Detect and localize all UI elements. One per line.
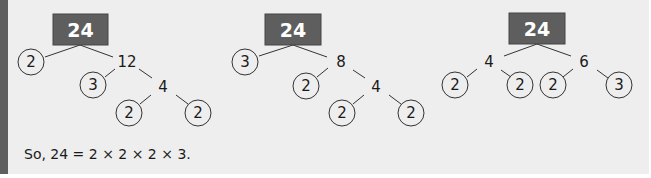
prime-factor: 2 — [406, 104, 416, 122]
root-value: 24 — [67, 19, 93, 41]
factor-tree-2: 24 3 8 2 4 2 2 — [232, 14, 424, 126]
prime-factor: 3 — [614, 76, 624, 94]
composite-factor: 4 — [371, 78, 381, 96]
prime-factor: 2 — [26, 53, 36, 71]
composite-factor: 4 — [484, 53, 494, 71]
root-value: 24 — [524, 18, 550, 40]
composite-factor: 6 — [579, 53, 589, 71]
composite-factor: 4 — [158, 78, 168, 96]
prime-factor: 2 — [337, 104, 347, 122]
prime-factor: 2 — [124, 104, 134, 122]
factor-tree-3: 24 4 6 2 2 2 3 — [442, 13, 632, 98]
composite-factor: 8 — [336, 53, 346, 71]
prime-factor: 2 — [515, 76, 525, 94]
prime-factor: 3 — [240, 53, 250, 71]
prime-factor: 2 — [301, 77, 311, 95]
prime-factor: 3 — [88, 76, 98, 94]
conclusion-text: So, 24 = 2 × 2 × 2 × 3. — [24, 146, 191, 162]
prime-factor: 2 — [450, 76, 460, 94]
prime-factor: 2 — [548, 76, 558, 94]
prime-factor: 2 — [193, 104, 203, 122]
factor-tree-1: 24 2 12 3 4 2 2 — [18, 14, 211, 126]
composite-factor: 12 — [117, 53, 136, 71]
root-value: 24 — [280, 19, 306, 41]
